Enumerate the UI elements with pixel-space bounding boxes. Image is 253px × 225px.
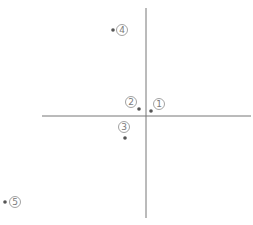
point-label: 1 <box>156 99 162 109</box>
point-4: 4 <box>111 25 127 36</box>
point-5: 5 <box>3 197 20 208</box>
point-dot <box>137 107 141 111</box>
point-1: 1 <box>149 99 164 113</box>
point-dot <box>123 136 127 140</box>
point-label: 3 <box>121 122 127 132</box>
point-3: 3 <box>119 122 130 140</box>
point-label: 4 <box>119 25 125 35</box>
point-label: 5 <box>12 197 18 207</box>
quadrant-diagram: 12345 <box>0 0 253 225</box>
point-label: 2 <box>128 97 134 107</box>
point-2: 2 <box>126 97 141 111</box>
point-dot <box>149 109 153 113</box>
point-dot <box>3 200 7 204</box>
point-dot <box>111 28 115 32</box>
